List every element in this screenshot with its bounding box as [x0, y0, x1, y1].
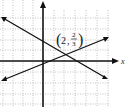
increasing-line [3, 38, 107, 80]
x-axis-label: x [120, 57, 125, 66]
coordinate-graph: x ( 2 , 2 3 ) [0, 0, 129, 107]
grid [0, 0, 110, 107]
svg-text:3: 3 [72, 40, 76, 48]
x-axis-arrow [112, 58, 119, 64]
svg-text:2: 2 [61, 35, 66, 46]
svg-text:,: , [67, 35, 70, 46]
y-axis-arrow [40, 1, 46, 8]
svg-text:2: 2 [72, 31, 76, 39]
decreasing-line [3, 18, 106, 78]
svg-text:): ) [78, 31, 83, 49]
intersection-label: ( 2 , 2 3 ) [56, 31, 83, 49]
